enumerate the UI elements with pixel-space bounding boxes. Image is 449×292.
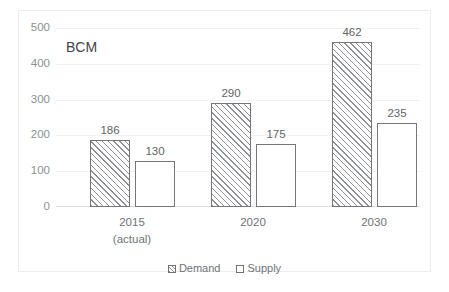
bcm-unit-annotation: BCM bbox=[66, 40, 97, 54]
x-axis-label-2020-year: 2020 bbox=[240, 216, 266, 228]
plot-area: 186 130 290 175 462 235 bbox=[56, 28, 420, 207]
x-axis-label-2015-sub: (actual) bbox=[113, 231, 151, 248]
y-tick-label: 500 bbox=[14, 22, 50, 34]
y-tick-label: 300 bbox=[14, 94, 50, 106]
bar-supply-2015[interactable] bbox=[135, 161, 175, 208]
y-tick-label: 0 bbox=[14, 201, 50, 213]
legend-swatch-empty-icon bbox=[236, 265, 244, 273]
bar-supply-2020[interactable] bbox=[256, 144, 296, 207]
value-label-supply-2015: 130 bbox=[145, 146, 164, 158]
legend-label-supply: Supply bbox=[247, 263, 281, 274]
x-axis-label-2030: 2030 bbox=[361, 214, 387, 231]
x-axis-label-2030-year: 2030 bbox=[361, 216, 387, 228]
x-axis-label-2015-year: 2015 bbox=[119, 216, 145, 228]
bar-chart-figure: 500 400 300 200 100 0 186 130 290 175 46… bbox=[0, 0, 449, 292]
gridline-500 bbox=[56, 28, 420, 29]
legend-item-supply[interactable]: Supply bbox=[236, 263, 281, 274]
y-tick-label: 100 bbox=[14, 165, 50, 177]
bar-demand-2020[interactable] bbox=[211, 103, 251, 207]
y-tick-label: 400 bbox=[14, 58, 50, 70]
value-label-demand-2015: 186 bbox=[100, 125, 119, 137]
bar-demand-2015[interactable] bbox=[90, 140, 130, 207]
value-label-demand-2020: 290 bbox=[221, 88, 240, 100]
x-axis-label-2020: 2020 bbox=[240, 214, 266, 231]
y-axis: 500 400 300 200 100 0 bbox=[12, 28, 50, 207]
legend-swatch-hatched-icon bbox=[168, 265, 176, 273]
value-label-supply-2020: 175 bbox=[266, 129, 285, 141]
y-tick-label: 200 bbox=[14, 130, 50, 142]
x-axis-label-2015: 2015 (actual) bbox=[113, 214, 151, 247]
value-label-demand-2030: 462 bbox=[342, 27, 361, 39]
bar-demand-2030[interactable] bbox=[332, 42, 372, 207]
legend-label-demand: Demand bbox=[179, 263, 221, 274]
chart-legend: Demand Supply bbox=[0, 263, 449, 274]
bar-supply-2030[interactable] bbox=[377, 123, 417, 207]
value-label-supply-2030: 235 bbox=[387, 108, 406, 120]
legend-item-demand[interactable]: Demand bbox=[168, 263, 221, 274]
